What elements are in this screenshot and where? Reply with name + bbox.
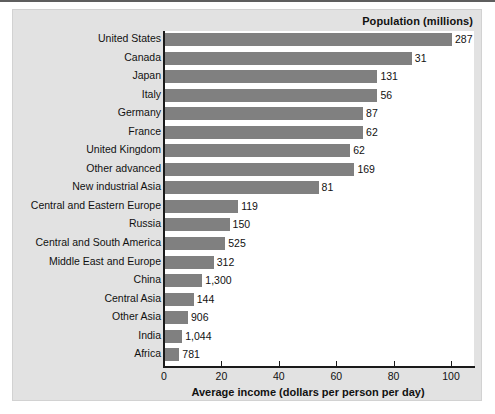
bar-value-label: 169 xyxy=(357,163,375,176)
bar-track: 62 xyxy=(165,126,473,139)
bar xyxy=(165,89,377,102)
bar xyxy=(165,256,214,269)
bar-row: Central and South America525 xyxy=(13,235,483,254)
category-label: Middle East and Europe xyxy=(49,255,161,267)
figure-panel: Population (millions) United States287Ca… xyxy=(12,9,482,401)
bar-value-label: 56 xyxy=(380,89,392,102)
top-rule-divider xyxy=(0,0,495,2)
chart-figure: Population (millions) United States287Ca… xyxy=(0,0,495,414)
bar-row: Other advanced169 xyxy=(13,161,483,180)
bar-row: Africa781 xyxy=(13,346,483,365)
bar-track: 131 xyxy=(165,70,473,83)
bar-track: 1,044 xyxy=(165,330,473,343)
bar xyxy=(165,144,350,157)
bar xyxy=(165,348,179,361)
bar-rows: United States287Canada31Japan131Italy56G… xyxy=(13,31,483,365)
bar xyxy=(165,126,363,139)
bar-track: 62 xyxy=(165,144,473,157)
bar-row: Middle East and Europe312 xyxy=(13,254,483,273)
bar-value-label: 62 xyxy=(353,144,365,157)
bar-row: India1,044 xyxy=(13,328,483,347)
bar-row: Italy56 xyxy=(13,87,483,106)
bar-track: 169 xyxy=(165,163,473,176)
bar-row: China1,300 xyxy=(13,272,483,291)
x-tick-label: 60 xyxy=(330,370,342,382)
bar xyxy=(165,163,354,176)
bar xyxy=(165,330,182,343)
bar-track: 525 xyxy=(165,237,473,250)
category-label: Africa xyxy=(134,347,161,359)
category-label: Other advanced xyxy=(86,162,161,174)
bar xyxy=(165,293,194,306)
category-label: Japan xyxy=(132,69,161,81)
bar-track: 150 xyxy=(165,218,473,231)
bar-track: 81 xyxy=(165,181,473,194)
bar-value-label: 62 xyxy=(366,126,378,139)
bar-row: New industrial Asia81 xyxy=(13,179,483,198)
bar xyxy=(165,33,452,46)
bar-row: Germany87 xyxy=(13,105,483,124)
category-label: Germany xyxy=(118,106,161,118)
x-tick-label: 80 xyxy=(388,370,400,382)
bar-row: United States287 xyxy=(13,31,483,50)
x-tick-mark xyxy=(451,361,452,367)
bar-value-label: 906 xyxy=(191,311,209,324)
bar-value-label: 119 xyxy=(241,200,258,213)
bar-value-label: 144 xyxy=(197,293,215,306)
bar-value-label: 1,300 xyxy=(205,274,231,287)
bar xyxy=(165,218,230,231)
bar xyxy=(165,107,363,120)
category-label: France xyxy=(128,125,161,137)
category-label: New industrial Asia xyxy=(72,180,161,192)
x-tick-mark xyxy=(279,361,280,367)
x-tick-mark xyxy=(164,361,165,367)
bar-track: 56 xyxy=(165,89,473,102)
category-label: Russia xyxy=(129,217,161,229)
bar-row: Central Asia144 xyxy=(13,291,483,310)
bar xyxy=(165,237,225,250)
category-label: United States xyxy=(98,32,161,44)
x-tick-mark xyxy=(221,361,222,367)
bar-value-label: 31 xyxy=(415,52,427,65)
bar-track: 781 xyxy=(165,348,473,361)
bar-row: Japan131 xyxy=(13,68,483,87)
bar-track: 119 xyxy=(165,200,473,213)
bar-value-label: 312 xyxy=(217,256,235,269)
x-tick-label: 20 xyxy=(216,370,228,382)
category-label: China xyxy=(134,273,161,285)
category-label: Central Asia xyxy=(104,292,161,304)
bar xyxy=(165,52,412,65)
category-label: Italy xyxy=(142,88,161,100)
bar xyxy=(165,181,319,194)
category-label: India xyxy=(138,329,161,341)
bar xyxy=(165,70,377,83)
bar-value-label: 781 xyxy=(182,348,200,361)
category-label: Central and Eastern Europe xyxy=(31,199,161,211)
bar-track: 906 xyxy=(165,311,473,324)
x-tick-label: 100 xyxy=(442,370,460,382)
bar-value-label: 1,044 xyxy=(185,330,211,343)
x-tick-mark xyxy=(394,361,395,367)
bar-track: 287 xyxy=(165,33,473,46)
bar xyxy=(165,200,238,213)
bar xyxy=(165,311,188,324)
category-label: Other Asia xyxy=(112,310,161,322)
bar-value-label: 525 xyxy=(228,237,246,250)
bar-track: 1,300 xyxy=(165,274,473,287)
bar-row: Central and Eastern Europe119 xyxy=(13,198,483,217)
bar-track: 312 xyxy=(165,256,473,269)
bar-value-label: 150 xyxy=(233,218,251,231)
bar-track: 31 xyxy=(165,52,473,65)
bar-value-label: 287 xyxy=(455,33,473,46)
x-axis-line xyxy=(163,366,475,368)
series-caption: Population (millions) xyxy=(362,15,473,27)
bar-track: 144 xyxy=(165,293,473,306)
bar-track: 87 xyxy=(165,107,473,120)
bar-value-label: 87 xyxy=(366,107,378,120)
bar-row: Canada31 xyxy=(13,50,483,69)
bar-row: Other Asia906 xyxy=(13,309,483,328)
bar-row: France62 xyxy=(13,124,483,143)
category-label: United Kingdom xyxy=(86,143,161,155)
bar-row: United Kingdom62 xyxy=(13,142,483,161)
category-label: Central and South America xyxy=(36,236,162,248)
